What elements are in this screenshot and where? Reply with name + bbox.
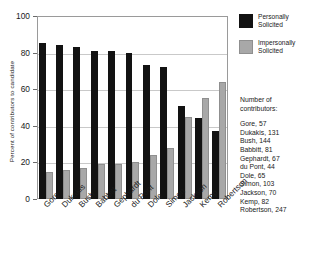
contributors-list: Gore, 57Dukakis, 131Bush, 144Babbitt, 81…	[240, 120, 286, 215]
contributors-list-item: Babbitt, 81	[240, 146, 286, 155]
legend-label: ImpersonallySolicited	[258, 39, 295, 55]
contributors-list-item: du Pont, 44	[240, 163, 286, 172]
contributors-list-item: Robertson, 247	[240, 206, 286, 215]
contributors-list-item: Dole, 65	[240, 172, 286, 181]
x-tick-label: Gore	[42, 190, 61, 209]
legend-swatch	[239, 40, 253, 54]
note-title-line2: contributors:	[240, 105, 286, 114]
contributors-note: Number of contributors: Gore, 57Dukakis,…	[240, 96, 286, 215]
contributors-list-item: Jackson, 70	[240, 189, 286, 198]
legend-label-line1: Personally	[258, 13, 289, 21]
note-title-line1: Number of	[240, 96, 286, 105]
legend-label: PersonallySolicited	[258, 13, 289, 29]
legend-label-line2: Solicited	[258, 21, 289, 29]
contributors-list-item: Gephardt, 67	[240, 155, 286, 164]
legend-label-line2: Solicited	[258, 47, 295, 55]
legend-swatch	[239, 14, 253, 28]
contributors-list-item: Kemp, 82	[240, 198, 286, 207]
contributors-list-item: Dukakis, 131	[240, 129, 286, 138]
legend-label-line1: Impersonally	[258, 39, 295, 47]
bar-chart-figure: Percent of contributors to candidate 020…	[0, 0, 329, 271]
contributors-list-item: Gore, 57	[240, 120, 286, 129]
contributors-note-title: Number of contributors:	[240, 96, 286, 113]
contributors-list-item: Bush, 144	[240, 137, 286, 146]
contributors-list-item: Simon, 103	[240, 180, 286, 189]
